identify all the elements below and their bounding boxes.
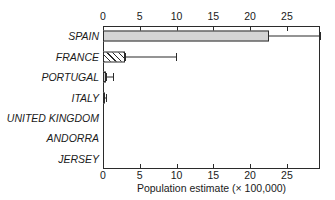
- bar-portugal: [103, 72, 106, 83]
- error-bar-cap: [176, 53, 177, 61]
- error-bar-cap: [320, 32, 321, 40]
- x-tick-label-top: 5: [125, 11, 155, 22]
- x-tick-label-bottom: 5: [125, 170, 155, 181]
- error-bar-line: [125, 56, 176, 57]
- error-bar-line: [106, 77, 113, 78]
- x-tick-label-top: 25: [272, 11, 302, 22]
- x-tick-label-top: 20: [235, 11, 265, 22]
- population-estimate-bar-chart: 00551010151520202525 SPAINFRANCEPORTUGAL…: [0, 0, 335, 200]
- category-label: UNITED KINGDOM: [7, 112, 99, 123]
- x-axis-title: Population estimate (× 100,000): [103, 182, 320, 194]
- x-tick-label-bottom: 25: [272, 170, 302, 181]
- category-label: PORTUGAL: [41, 72, 99, 83]
- x-tick-label-top: 15: [198, 11, 228, 22]
- plot-area-frame: [103, 26, 320, 169]
- x-tick-label-bottom: 15: [198, 170, 228, 181]
- category-label: JERSEY: [58, 153, 99, 164]
- bar-andorra: [103, 133, 104, 144]
- category-label: SPAIN: [68, 31, 99, 42]
- bar-italy: [103, 92, 105, 103]
- bar-united-kingdom: [103, 112, 104, 123]
- error-bar-cap: [106, 94, 107, 102]
- error-bar-cap: [106, 73, 107, 81]
- x-tick-top: [287, 26, 288, 31]
- x-tick-label-bottom: 20: [235, 170, 265, 181]
- bar-france: [103, 51, 125, 62]
- bar-spain: [103, 31, 269, 42]
- x-tick-label-bottom: 0: [88, 170, 118, 181]
- bar-jersey: [103, 153, 104, 164]
- category-label: ANDORRA: [46, 133, 99, 144]
- category-label: ITALY: [72, 92, 99, 103]
- error-bar-cap: [125, 53, 126, 61]
- error-bar-cap: [113, 73, 114, 81]
- x-tick-label-top: 0: [88, 11, 118, 22]
- x-tick-label-bottom: 10: [162, 170, 192, 181]
- x-tick-label-top: 10: [162, 11, 192, 22]
- category-label: FRANCE: [56, 51, 99, 62]
